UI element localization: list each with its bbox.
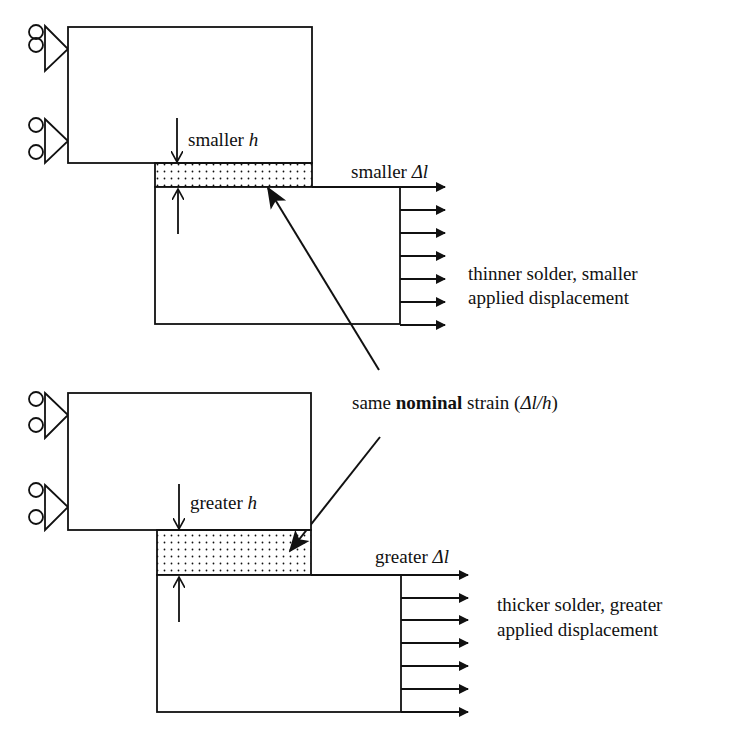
top-caption-line1: thinner solder, smaller	[468, 264, 638, 283]
top-caption-line2: applied displacement	[468, 288, 629, 307]
bottom-caption-line1: thicker solder, greater	[497, 595, 662, 614]
top-height-label: smaller h	[188, 130, 258, 149]
bottom-caption-line2: applied displacement	[497, 620, 658, 639]
roller-support-icon	[29, 25, 68, 71]
roller-support-icon	[29, 483, 68, 530]
bottom-displacement-label: greater Δl	[375, 547, 449, 566]
nominal-strain-label: same nominal strain (Δl/h)	[352, 393, 558, 412]
roller-support-icon	[29, 118, 68, 163]
roller-support-icon	[29, 392, 68, 438]
top-displacement-label: smaller Δl	[351, 162, 428, 181]
thick-solder-layer	[157, 530, 311, 575]
thin-solder-layer	[155, 163, 312, 187]
lower-substrate-block	[155, 187, 400, 324]
solder-strain-diagram: smaller h smaller Δl thinner solder, sma…	[0, 0, 735, 741]
bottom-height-label: greater h	[190, 493, 257, 512]
lower-substrate-block	[157, 575, 401, 712]
